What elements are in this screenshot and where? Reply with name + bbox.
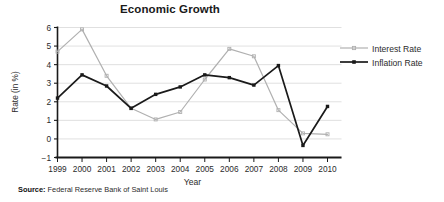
chart-plot-area: −10123456 199920002001200220032004200520… <box>0 0 444 202</box>
svg-text:0: 0 <box>46 134 51 144</box>
svg-text:2004: 2004 <box>171 164 190 174</box>
legend-swatches <box>340 46 368 63</box>
svg-text:6: 6 <box>46 23 51 33</box>
svg-text:2: 2 <box>46 97 51 107</box>
legend-label-inflation-rate[interactable]: Inflation Rate <box>372 58 423 68</box>
gridlines <box>58 28 342 158</box>
source-text: Federal Reserve Bank of Saint Louis <box>48 185 168 194</box>
svg-text:2007: 2007 <box>245 164 264 174</box>
svg-text:1: 1 <box>46 115 51 125</box>
economic-growth-chart: Economic Growth −10123456 19992000200120… <box>0 0 444 202</box>
svg-text:2006: 2006 <box>220 164 239 174</box>
svg-text:2010: 2010 <box>318 164 337 174</box>
svg-text:2008: 2008 <box>269 164 288 174</box>
y-axis <box>54 27 58 158</box>
source-note: Source: Federal Reserve Bank of Saint Lo… <box>18 185 168 194</box>
svg-text:2005: 2005 <box>196 164 215 174</box>
svg-text:2001: 2001 <box>97 164 116 174</box>
svg-text:2003: 2003 <box>146 164 165 174</box>
y-axis-title: Rate (in %) <box>10 71 20 113</box>
svg-text:4: 4 <box>46 60 51 70</box>
x-axis-title: Year <box>184 177 202 187</box>
x-axis <box>56 158 342 163</box>
y-tick-labels: −10123456 <box>42 23 52 163</box>
svg-text:2009: 2009 <box>294 164 313 174</box>
svg-text:−1: −1 <box>42 153 52 163</box>
svg-text:3: 3 <box>46 78 51 88</box>
svg-text:5: 5 <box>46 41 51 51</box>
svg-text:2002: 2002 <box>122 164 141 174</box>
source-label: Source: <box>18 185 46 194</box>
svg-text:1999: 1999 <box>48 164 67 174</box>
x-tick-labels: 1999200020012002200320042005200620072008… <box>48 164 337 174</box>
legend-label-interest-rate[interactable]: Interest Rate <box>372 44 421 54</box>
svg-text:2000: 2000 <box>73 164 92 174</box>
